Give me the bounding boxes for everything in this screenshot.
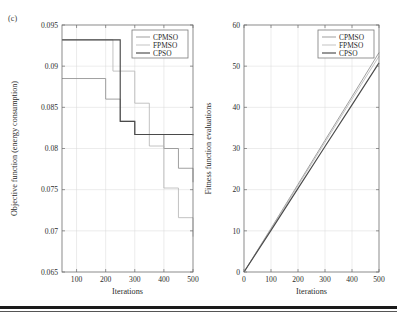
figure-container: (c) 0.0650.070.0750.080.0850.090.0951002… — [0, 0, 397, 318]
x-tick-label: 300 — [319, 275, 331, 284]
legend-label-cpso: CPSO — [339, 49, 358, 58]
y-axis-title: Fitness function evaluations — [204, 103, 213, 195]
x-tick-label: 200 — [100, 275, 112, 284]
series-line-fpmso — [244, 56, 379, 272]
x-tick-label: 200 — [292, 275, 304, 284]
y-tick-label: 0.075 — [41, 185, 58, 194]
legend: CPMSOFPMSOCPSO — [318, 30, 374, 58]
y-tick-label: 20 — [232, 185, 240, 194]
series-line-cpso — [244, 63, 379, 272]
y-tick-label: 50 — [232, 62, 240, 71]
x-tick-label: 100 — [71, 275, 83, 284]
x-tick-label: 0 — [242, 275, 246, 284]
y-tick-label: 0 — [236, 268, 240, 277]
bottom-rule-thick — [0, 306, 397, 309]
x-tick-label: 400 — [346, 275, 358, 284]
x-tick-label: 100 — [265, 275, 277, 284]
y-tick-label: 0.095 — [41, 21, 58, 30]
x-tick-label: 300 — [129, 275, 141, 284]
x-tick-label: 400 — [158, 275, 170, 284]
y-tick-label: 0.07 — [45, 227, 58, 236]
y-tick-label: 0.08 — [45, 144, 58, 153]
chart-objective-function: 0.0650.070.0750.080.0850.090.09510020030… — [0, 0, 200, 306]
y-axis-title: Objective function (energy consumption) — [10, 81, 19, 216]
x-axis-title: Iterations — [112, 287, 143, 296]
legend-label-cpso: CPSO — [153, 49, 172, 58]
series-line-cpmso — [244, 53, 379, 272]
series-line-cpmso — [62, 79, 193, 183]
y-tick-label: 10 — [232, 227, 240, 236]
y-tick-label: 0.085 — [41, 103, 58, 112]
y-tick-label: 40 — [232, 103, 240, 112]
y-tick-label: 0.09 — [45, 62, 58, 71]
y-tick-label: 60 — [232, 21, 240, 30]
x-tick-label: 500 — [373, 275, 385, 284]
series-line-fpmso — [62, 40, 193, 237]
y-tick-label: 30 — [232, 144, 240, 153]
chart-fitness-evaluations: 01020304050600100200300400500IterationsF… — [197, 0, 397, 306]
legend: CPMSOFPMSOCPSO — [132, 30, 188, 58]
y-tick-label: 0.065 — [41, 268, 58, 277]
x-axis-title: Iterations — [296, 287, 327, 296]
bottom-rule-thin — [0, 311, 397, 312]
